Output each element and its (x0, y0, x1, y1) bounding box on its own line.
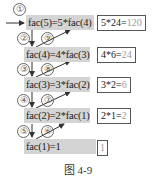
step-number-7: ⑦ (41, 94, 54, 107)
call-box-fac4: fac(4)=4*fac(3) (24, 47, 90, 62)
result-expr: 3*2= (101, 79, 122, 90)
step-number-4: ④ (17, 94, 30, 107)
result-value: 1 (100, 142, 105, 153)
result-box-fac3: 3*2=6 (97, 77, 131, 93)
step-number-2: ② (17, 32, 30, 45)
result-expr: 4*6= (101, 49, 122, 60)
result-expr: 2*1= (101, 110, 122, 121)
result-expr: 5*24= (101, 17, 127, 28)
result-box-fac4: 4*6=24 (97, 47, 136, 63)
step-number-5: ⑤ (17, 125, 30, 138)
figure-caption: 图 4-9 (0, 161, 156, 177)
result-box-fac2: 2*1=2 (97, 108, 131, 124)
call-box-fac2: fac(2)=2*fac(1) (24, 108, 90, 123)
step-number-3: ③ (17, 63, 30, 76)
result-box-fac1: 1 (97, 140, 108, 156)
call-box-fac3: fac(3)=3*fac(2) (24, 77, 90, 92)
result-box-fac5: 5*24=120 (97, 15, 146, 31)
step-number-6: ⑥ (41, 125, 54, 138)
step-number-1: ① (13, 3, 26, 16)
call-box-fac1: fac(1)=1 (24, 139, 96, 154)
result-value: 120 (127, 17, 142, 28)
result-value: 2 (122, 110, 127, 121)
step-number-9: ⑨ (41, 32, 54, 45)
step-number-8: ⑧ (41, 63, 54, 76)
result-value: 24 (122, 49, 132, 60)
result-value: 6 (122, 79, 127, 90)
call-box-fac5: fac(5)=5*fac(4) (26, 15, 94, 30)
